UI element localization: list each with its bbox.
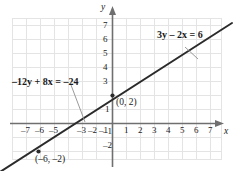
x-tick-label-neg6: –6 (35, 126, 44, 135)
y-tick-label-5: 5 (103, 49, 108, 58)
y-tick-label-3: 3 (103, 77, 108, 86)
coordinate-plane-figure: y x 7 6 5 4 3 1 –1 –2 –7 –6 –5 –3 –2 –1 … (0, 0, 236, 171)
x-tick-label-neg1: –1 (99, 126, 108, 135)
y-axis-arrowhead (109, 6, 116, 15)
point-marker-0-2 (110, 93, 114, 97)
x-tick-label-6: 6 (194, 126, 199, 135)
x-tick-label-neg2: –2 (88, 126, 97, 135)
x-tick-label-7: 7 (208, 126, 213, 135)
x-axis-arrowhead (215, 120, 224, 127)
x-tick-label-1: 1 (124, 126, 129, 135)
x-axis-label: x (224, 127, 228, 137)
x-tick-label-3: 3 (152, 126, 157, 135)
x-tick-label-2: 2 (138, 126, 143, 135)
x-tick-label-neg3: –3 (77, 126, 86, 135)
x-tick-label-4: 4 (166, 126, 171, 135)
y-tick-label-4: 4 (103, 63, 108, 72)
equation-label-lower: –12y + 8x = –24 (12, 77, 78, 87)
x-tick-label-neg7: –7 (21, 126, 30, 135)
y-axis-label: y (101, 3, 105, 13)
point-label-neg6-neg2: (–6, –2) (35, 155, 65, 165)
point-label-0-2: (0, 2) (116, 98, 137, 108)
y-tick-label-1: 1 (105, 105, 110, 114)
y-tick-label-6: 6 (103, 35, 108, 44)
x-tick-label-neg5: –5 (49, 126, 58, 135)
x-tick-label-5: 5 (180, 126, 185, 135)
y-tick-label-neg2: –2 (103, 141, 112, 150)
y-tick-label-7: 7 (103, 21, 108, 30)
point-marker-neg6-neg2 (36, 149, 40, 153)
equation-label-upper: 3y – 2x = 6 (157, 30, 203, 40)
